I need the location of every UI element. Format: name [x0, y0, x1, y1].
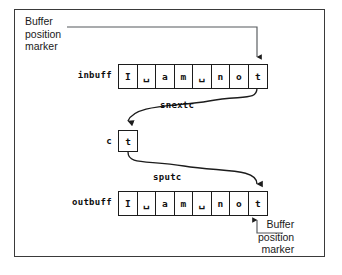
inbuff-cell: m — [175, 65, 194, 88]
bottom-buffer-position-marker-label: Buffer position marker — [258, 218, 294, 256]
outbuff-cell-current: t — [249, 192, 268, 215]
bottom-marker-line-2: position — [258, 231, 294, 244]
top-buffer-position-marker-label: Buffer position marker — [25, 15, 61, 53]
inbuff-label: inbuff — [58, 70, 112, 80]
outbuff-buffer: I ␣ a m ␣ n o t — [118, 191, 268, 216]
sputc-connector — [128, 152, 257, 184]
top-marker-line-2: position — [25, 28, 61, 41]
bottom-marker-line-3: marker — [258, 243, 294, 256]
inbuff-cell-current: t — [249, 65, 268, 88]
outbuff-cell: a — [156, 192, 175, 215]
outbuff-cell: I — [119, 192, 138, 215]
top-marker-connector — [67, 27, 257, 57]
outbuff-label: outbuff — [50, 197, 112, 207]
inbuff-cell: ␣ — [138, 65, 157, 88]
bottom-marker-line-1: Buffer — [258, 218, 294, 231]
outbuff-cell: ␣ — [193, 192, 212, 215]
inbuff-cell: ␣ — [193, 65, 212, 88]
inbuff-cell: a — [156, 65, 175, 88]
outbuff-cell: n — [212, 192, 231, 215]
top-marker-line-3: marker — [25, 40, 61, 53]
inbuff-cell: n — [212, 65, 231, 88]
sputc-label: sputc — [153, 172, 182, 182]
inbuff-buffer: I ␣ a m ␣ n o t — [118, 64, 268, 89]
c-char-box: t — [118, 130, 138, 152]
inbuff-cell: I — [119, 65, 138, 88]
figure-canvas: Buffer position marker inbuff I ␣ a m ␣ … — [0, 0, 342, 275]
inbuff-cell: o — [230, 65, 249, 88]
c-label: c — [96, 136, 112, 146]
outbuff-cell: o — [230, 192, 249, 215]
snextc-label: snextc — [160, 100, 194, 110]
outbuff-cell: ␣ — [138, 192, 157, 215]
outbuff-cell: m — [175, 192, 194, 215]
top-marker-line-1: Buffer — [25, 15, 61, 28]
